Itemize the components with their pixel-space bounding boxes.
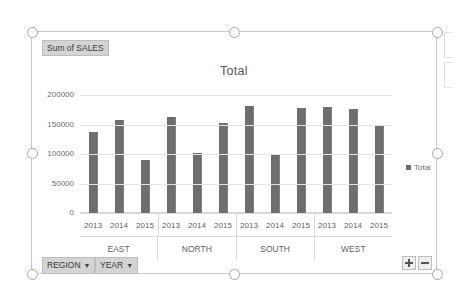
year-tick-label: 2013 [314, 214, 340, 236]
year-tick-label: 2014 [184, 214, 210, 236]
resize-handle-bottom-right[interactable] [432, 269, 443, 280]
year-field-button[interactable]: YEAR▼ [95, 257, 138, 274]
bar[interactable] [245, 106, 254, 213]
resize-handle-middle-right[interactable] [432, 148, 443, 159]
year-tick-label: 2015 [288, 214, 314, 236]
year-field-label: YEAR [100, 260, 123, 270]
bar[interactable] [219, 123, 228, 213]
year-tick-label: 2013 [236, 214, 262, 236]
resize-handle-top-left[interactable] [27, 27, 38, 38]
y-axis-tick-label: 150000 [14, 120, 74, 129]
pivotchart-screenshot: Sum of SALES Total 050000100000150000200… [0, 0, 468, 301]
value-field-label: Sum of SALES [47, 43, 104, 53]
gridline [80, 154, 392, 155]
bar[interactable] [167, 117, 176, 213]
group-separator [236, 214, 237, 236]
year-tick-label: 2013 [80, 214, 106, 236]
year-tick-label: 2015 [132, 214, 158, 236]
y-axis-tick-label: 200000 [14, 90, 74, 99]
y-axis-tick-label: 50000 [14, 179, 74, 188]
group-separator [314, 214, 315, 236]
pivotchart-area[interactable]: Sum of SALES Total 050000100000150000200… [32, 32, 436, 273]
chevron-down-icon: ▼ [126, 262, 133, 269]
chart-legend: Total [406, 163, 431, 172]
gridline [80, 184, 392, 185]
region-field-button[interactable]: REGION▼ [42, 257, 95, 274]
y-axis-tick-label: 100000 [14, 149, 74, 158]
year-tick-label: 2015 [210, 214, 236, 236]
resize-handle-bottom-left[interactable] [27, 269, 38, 280]
year-tick-label: 2014 [106, 214, 132, 236]
chevron-down-icon: ▼ [84, 262, 91, 269]
bar[interactable] [375, 125, 384, 214]
group-separator [158, 214, 159, 236]
resize-handle-top-center[interactable] [229, 27, 240, 38]
region-tick-label: SOUTH [237, 237, 315, 260]
resize-handle-middle-left[interactable] [27, 148, 38, 159]
year-tick-label: 2014 [262, 214, 288, 236]
gridline [80, 125, 392, 126]
chart-title: Total [32, 64, 436, 78]
region-field-label: REGION [47, 260, 81, 270]
year-tick-label: 2015 [366, 214, 392, 236]
bar[interactable] [141, 160, 150, 213]
year-tick-row: 2013201420152013201420152013201420152013… [80, 214, 392, 236]
edge-artifact [444, 32, 453, 58]
region-tick-label: WEST [315, 237, 392, 260]
year-tick-label: 2013 [158, 214, 184, 236]
region-tick-label: NORTH [158, 237, 236, 260]
category-axis: 2013201420152013201420152013201420152013… [80, 213, 392, 259]
plus-icon [408, 259, 410, 267]
year-tick-label: 2014 [340, 214, 366, 236]
resize-handle-top-right[interactable] [432, 27, 443, 38]
bar[interactable] [89, 132, 98, 213]
legend-entry-label: Total [414, 163, 431, 172]
bar[interactable] [115, 120, 124, 213]
minus-icon [421, 262, 429, 264]
gridline [80, 95, 392, 96]
expand-field-button[interactable] [402, 256, 416, 270]
resize-handle-bottom-center[interactable] [229, 269, 240, 280]
plot-area: 050000100000150000200000 [80, 95, 392, 213]
y-axis-tick-label: 0 [14, 208, 74, 217]
collapse-field-button[interactable] [418, 256, 432, 270]
bar[interactable] [323, 107, 332, 213]
edge-artifact [444, 62, 453, 88]
expand-collapse-group [402, 256, 432, 270]
value-field-button[interactable]: Sum of SALES [42, 40, 109, 56]
legend-swatch-icon [406, 165, 411, 170]
